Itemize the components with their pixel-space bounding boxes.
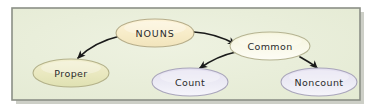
node-nouns[interactable]: NOUNS <box>116 19 194 47</box>
node-nouns-label: NOUNS <box>135 28 174 39</box>
node-proper[interactable]: Proper <box>33 59 109 87</box>
diagram-canvas: NOUNS Proper Common Count Noncount <box>0 0 374 110</box>
node-common[interactable]: Common <box>230 32 310 60</box>
node-common-label: Common <box>247 41 292 52</box>
node-count-label: Count <box>175 77 205 88</box>
nouns-classification-diagram: NOUNS Proper Common Count Noncount <box>0 0 374 110</box>
node-proper-label: Proper <box>54 68 87 79</box>
node-noncount[interactable]: Noncount <box>281 68 357 96</box>
node-count[interactable]: Count <box>152 68 228 96</box>
node-noncount-label: Noncount <box>295 77 344 88</box>
